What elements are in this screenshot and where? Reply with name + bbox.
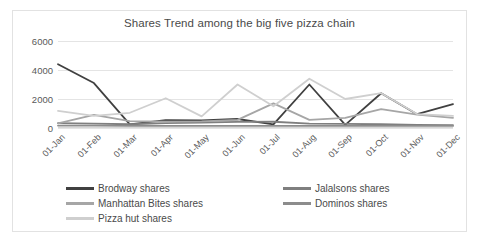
legend-column-right: Jalalsons sharesDominos shares [283,181,389,211]
x-axis-tick-label: 01-Nov [396,132,426,162]
x-axis-tick-label: 01-Feb [73,132,103,162]
plot-area: 0200040006000 [58,41,453,128]
legend-item[interactable]: Manhattan Bites shares [66,196,203,210]
x-axis-tick-label: 01-Jun [217,132,247,162]
legend-item-label: Manhattan Bites shares [98,198,203,209]
legend-swatch-icon [66,217,94,220]
legend-item[interactable]: Dominos shares [283,196,389,210]
legend-item[interactable]: Brodway shares [66,181,203,195]
x-axis-tick-label: 01-Mar [109,132,139,162]
legend-swatch-icon [66,202,94,205]
x-axis-tick-label: 01-May [181,132,211,162]
legend-item[interactable]: Pizza hut shares [66,211,203,225]
x-axis-tick-label: 01-Sep [325,132,355,162]
legend-item[interactable]: Jalalsons shares [283,181,389,195]
legend-item-label: Pizza hut shares [98,213,172,224]
gridline [58,128,453,129]
y-axis-tick-label: 6000 [32,36,53,47]
legend-item-label: Brodway shares [98,183,170,194]
legend-item-label: Dominos shares [315,198,387,209]
series-lines [58,41,453,128]
x-axis-tick-label: 01-Apr [145,132,175,162]
y-axis-tick-label: 0 [48,123,53,134]
x-axis-tick-label: 01-Dec [432,132,462,162]
series-line [58,122,453,125]
legend-item-label: Jalalsons shares [315,183,389,194]
legend-swatch-icon [66,187,94,190]
legend-swatch-icon [283,187,311,190]
x-axis-labels: 01-Jan01-Feb01-Mar01-Apr01-May01-Jun01-J… [58,130,453,176]
x-axis-tick-label: 01-Oct [360,132,390,162]
legend-column-left: Brodway sharesManhattan Bites sharesPizz… [66,181,203,226]
x-axis-tick-label: 01-Jan [37,132,67,162]
y-axis-tick-label: 4000 [32,65,53,76]
x-axis-tick-label: 01-Jul [253,132,283,162]
x-axis-tick-label: 01-Aug [289,132,319,162]
chart-container: Shares Trend among the big five pizza ch… [12,10,467,232]
legend-swatch-icon [283,202,311,205]
y-axis-tick-label: 2000 [32,94,53,105]
